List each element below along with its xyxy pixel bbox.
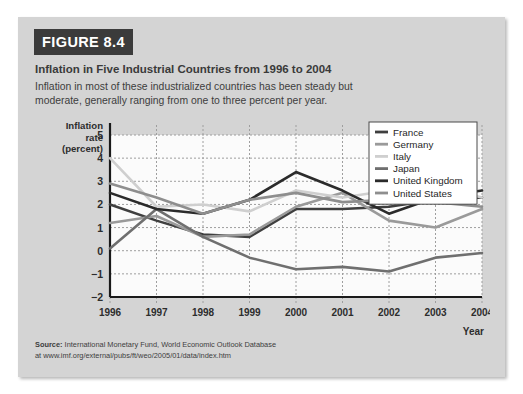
y-tick-label: 5: [97, 129, 103, 141]
x-tick-label: 1996: [99, 307, 122, 318]
x-tick-label: 2004: [471, 307, 490, 318]
y-tick-label: −2: [91, 291, 103, 303]
y-tick-label: 4: [97, 152, 103, 164]
x-tick-label: 2002: [378, 307, 401, 318]
figure-card: FIGURE 8.4 Inflation in Five Industrial …: [18, 17, 505, 377]
y-tick-label: 1: [97, 222, 103, 234]
figure-number-badge: FIGURE 8.4: [34, 29, 133, 55]
x-tick-label: 2000: [285, 307, 308, 318]
legend-label-france: France: [393, 127, 424, 138]
figure-title: Inflation in Five Industrial Countries f…: [35, 63, 485, 75]
y-tick-label: 3: [97, 175, 103, 187]
source-note: Source: International Monetary Fund, Wor…: [35, 340, 475, 361]
chart-legend: FranceGermanyItalyJapanUnited KingdomUni…: [369, 122, 477, 204]
line-chart: 543210−1−2199619971998199920002001200220…: [35, 117, 490, 335]
y-tick-label: 2: [97, 198, 103, 210]
legend-label-germany: Germany: [393, 139, 433, 150]
source-label: Source:: [35, 340, 63, 349]
x-tick-label: 1999: [238, 307, 261, 318]
x-tick-label: 1997: [145, 307, 168, 318]
legend-label-united-states: United States: [393, 188, 452, 199]
legend-label-japan: Japan: [393, 163, 420, 174]
source-text: International Monetary Fund, World Econo…: [65, 340, 276, 349]
legend-label-italy: Italy: [393, 151, 411, 162]
x-tick-label: 1998: [192, 307, 215, 318]
figure-subtitle: Inflation in most of these industrialize…: [35, 80, 365, 108]
legend-label-united-kingdom: United Kingdom: [393, 175, 463, 186]
source-url: at www.imf.org/external/pubs/ft/weo/2005…: [35, 351, 231, 360]
chart-plot-area: Inflationrate(percent) Year 543210−1−219…: [35, 117, 490, 335]
x-tick-label: 2001: [331, 307, 354, 318]
figure-number-label: FIGURE 8.4: [42, 34, 125, 50]
y-tick-label: −1: [91, 268, 103, 280]
x-tick-label: 2003: [424, 307, 447, 318]
y-tick-label: 0: [97, 245, 103, 257]
